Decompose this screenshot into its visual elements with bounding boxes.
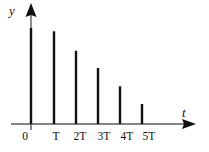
x-tick-label-4: 4T — [121, 131, 134, 143]
impulse-train-figure: y t 0 T 2T 3T 4T 5T — [0, 0, 209, 152]
x-tick-label-2: 2T — [74, 131, 87, 143]
x-tick-label-5: 5T — [143, 131, 156, 143]
x-axis-arrowhead — [182, 119, 196, 129]
y-axis-arrowhead — [26, 3, 37, 17]
x-tick-label-1: T — [52, 131, 59, 143]
y-axis-label: y — [9, 4, 15, 17]
x-tick-label-3: 3T — [98, 131, 111, 143]
x-tick-label-0: 0 — [22, 131, 28, 143]
x-axis-label: t — [182, 106, 186, 119]
